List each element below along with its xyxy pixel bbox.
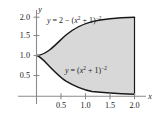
lower-eq-outer-exponent: −2 [101, 65, 107, 71]
lower-eq-operator: = ( [71, 66, 81, 75]
upper-equation-label: y = 2 − (x2 + 1)−2 [46, 15, 102, 25]
lower-equation-label: y = (x2 + 1)−2 [64, 65, 107, 75]
x-tick-label-1.5: 1.5 [105, 101, 115, 110]
y-tick-label-0.5: 0.5 [20, 71, 30, 80]
plot-svg: 0.5 1.0 1.5 2.0 0.5 1.0 1.5 2.0 y x y = … [0, 0, 162, 118]
upper-eq-middle: + 1) [83, 16, 97, 25]
y-tick-label-1.5: 1.5 [20, 31, 30, 40]
upper-eq-operator: = 2 − ( [53, 16, 75, 25]
lower-eq-middle: + 1) [88, 66, 102, 75]
figure-container: 0.5 1.0 1.5 2.0 0.5 1.0 1.5 2.0 y x y = … [0, 0, 162, 118]
x-axis-label: x [147, 92, 152, 101]
y-axis-label: y [37, 5, 42, 14]
x-tick-label-2.0: 2.0 [129, 101, 139, 110]
x-tick-label-0.5: 0.5 [56, 101, 66, 110]
y-tick-label-2.0: 2.0 [20, 13, 30, 22]
x-tick-label-1.0: 1.0 [80, 101, 90, 110]
shaded-region [37, 17, 135, 94]
upper-eq-outer-exponent: −2 [96, 15, 102, 21]
y-tick-label-1.0: 1.0 [20, 51, 30, 60]
